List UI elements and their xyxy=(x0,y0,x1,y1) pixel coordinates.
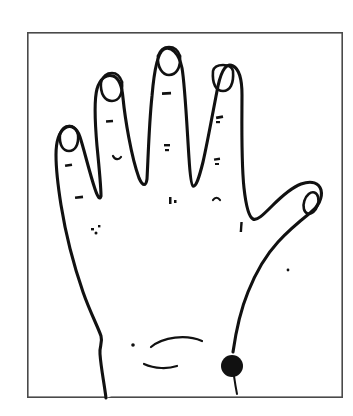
skin-speck xyxy=(287,269,290,272)
knuckle-mark xyxy=(98,225,100,227)
figure-root: Line drawing of the back of a left hand … xyxy=(0,0,353,416)
skin-speck xyxy=(95,232,98,235)
knuckle-mark xyxy=(91,228,94,230)
skin-speck xyxy=(131,343,135,347)
knuckle-mark xyxy=(164,144,170,146)
knuckle-mark xyxy=(169,197,172,204)
knuckle-mark xyxy=(174,200,177,203)
knuckle-mark xyxy=(106,120,113,123)
marker-dot xyxy=(221,355,243,377)
hand-drawing-svg xyxy=(0,0,353,416)
knuckle-mark xyxy=(162,92,171,95)
knuckle-mark xyxy=(215,163,219,165)
knuckle-mark xyxy=(165,149,169,151)
knuckle-mark xyxy=(216,121,220,123)
